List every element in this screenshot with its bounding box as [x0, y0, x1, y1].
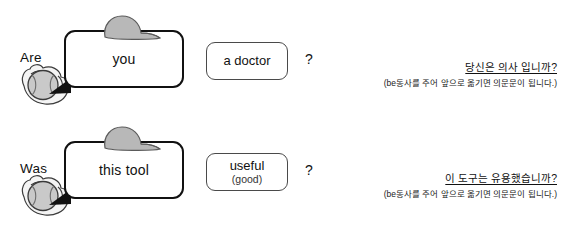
complement-main-text: useful: [230, 159, 265, 174]
sentence-row: Was this tool useful (good) ?: [0, 111, 563, 223]
sentence-row: Are you a doctor ?: [0, 0, 563, 112]
baseball-cap-icon: [98, 124, 164, 152]
korean-heading: 당신은 의사 입니까?: [307, 60, 557, 76]
korean-translation-block: 당신은 의사 입니까? (be동사를 주어 앞으로 옮기면 의문문이 됩니다.): [307, 60, 557, 90]
complement-main-text: a doctor: [224, 54, 271, 69]
complement-sub-text: (good): [232, 173, 262, 185]
korean-heading: 이 도구는 유용했습니까?: [307, 171, 557, 187]
subject-text: this tool: [99, 162, 149, 178]
subject-text: you: [112, 51, 135, 67]
korean-note: (be동사를 주어 앞으로 옮기면 의문문이 됩니다.): [307, 188, 557, 202]
baseball-cap-icon: [98, 13, 164, 41]
complement-box: a doctor: [206, 42, 288, 80]
korean-translation-block: 이 도구는 유용했습니까? (be동사를 주어 앞으로 옮기면 의문문이 됩니다…: [307, 171, 557, 201]
korean-note: (be동사를 주어 앞으로 옮기면 의문문이 됩니다.): [307, 77, 557, 91]
complement-box: useful (good): [206, 153, 288, 191]
